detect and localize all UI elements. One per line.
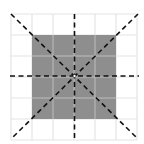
symmetry-diagram (0, 0, 144, 144)
center-point (73, 75, 75, 77)
